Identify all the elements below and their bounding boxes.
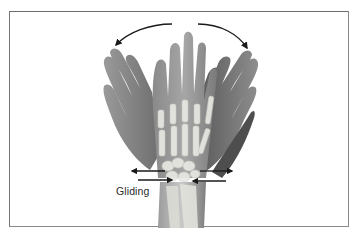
radial-deviation-arrow — [116, 24, 172, 45]
hand-wrist-illustration — [0, 0, 359, 236]
ulnar-deviation-arrow — [198, 24, 247, 48]
forearm — [158, 182, 206, 228]
gliding-label: Gliding — [116, 185, 149, 197]
